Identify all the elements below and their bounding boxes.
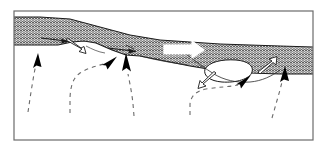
figure-root (0, 0, 328, 150)
cross-section-diagram (0, 0, 328, 150)
